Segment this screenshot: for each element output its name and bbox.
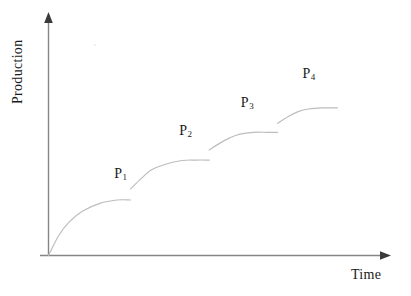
annotation-p4: P4 (302, 66, 314, 82)
annotation-p3: P3 (241, 95, 253, 111)
curve-segment-p3 (209, 132, 277, 150)
x-axis-label: Time (351, 267, 381, 283)
y-axis-label: Production (10, 88, 26, 104)
x-axis-label-text: Time (351, 267, 381, 282)
annotation-p1: P1 (114, 166, 126, 182)
annotation-p2-subscript: 2 (188, 129, 193, 139)
y-axis-arrow-icon (44, 12, 53, 23)
chart-plot-area (0, 0, 411, 296)
annotation-p3-base: P (241, 95, 249, 110)
annotation-p4-base: P (302, 66, 310, 81)
annotation-p2-base: P (179, 123, 187, 138)
production-time-chart: Production Time P1 P2 P3 P4 (0, 0, 411, 296)
annotation-p3-subscript: 3 (249, 101, 254, 111)
annotation-p2: P2 (179, 123, 191, 139)
annotation-p4-subscript: 4 (311, 72, 316, 82)
annotation-p1-subscript: 1 (123, 172, 128, 182)
curve-segment-p1 (49, 200, 131, 256)
curve-segment-p2 (131, 160, 210, 189)
x-axis-arrow-icon (380, 251, 391, 260)
y-axis-label-text: Production (10, 40, 25, 104)
curve-segment-p4 (278, 108, 338, 124)
scan-speck-artifact (94, 44, 96, 46)
annotation-p1-base: P (114, 166, 122, 181)
